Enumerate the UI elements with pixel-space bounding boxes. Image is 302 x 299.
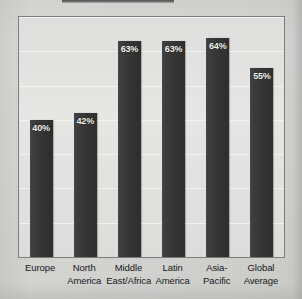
category-label: LatinAmerica [151,261,195,287]
category-label-line: America [151,274,195,287]
bar-slot: 63% [162,17,185,257]
category-label: MiddleEast/Africa [106,261,150,287]
category-label-line: Middle [106,261,150,274]
bar-value-label: 63% [162,44,185,54]
bar-slot: 64% [206,17,229,257]
category-label-line: Average [239,274,283,287]
category-axis-labels: EuropeNorthAmericaMiddleEast/AfricaLatin… [18,261,285,295]
bars-group: 40%42%63%63%64%55% [19,17,284,257]
category-label: NorthAmerica [62,261,106,287]
plot-area: 40%42%63%63%64%55% [18,16,285,258]
category-label-line: Latin [151,261,195,274]
bar-slot: 40% [30,17,53,257]
bar[interactable]: 63% [118,41,141,257]
bar-value-label: 40% [30,123,53,133]
bar-slot: 55% [250,17,273,257]
bar[interactable]: 64% [206,38,229,257]
category-label-line: Europe [18,261,62,274]
top-edge-artifact [62,0,174,3]
category-label-line: Global [239,261,283,274]
category-label-line: Asia- [195,261,239,274]
bar-slot: 42% [74,17,97,257]
chart-page: 40%42%63%63%64%55% EuropeNorthAmericaMid… [0,0,302,299]
bar-value-label: 55% [250,71,273,81]
category-label: Europe [18,261,62,274]
category-label-line: Pacific [195,274,239,287]
bar[interactable]: 42% [74,113,97,257]
bar[interactable]: 63% [162,41,185,257]
bar-slot: 63% [118,17,141,257]
bar[interactable]: 55% [250,68,273,257]
bar-value-label: 63% [118,44,141,54]
category-label-line: America [62,274,106,287]
bar-value-label: 42% [74,116,97,126]
bar-value-label: 64% [206,41,229,51]
bar[interactable]: 40% [30,120,53,257]
category-label: Asia-Pacific [195,261,239,287]
category-label-line: North [62,261,106,274]
category-label-line: East/Africa [106,274,150,287]
category-label: GlobalAverage [239,261,283,287]
